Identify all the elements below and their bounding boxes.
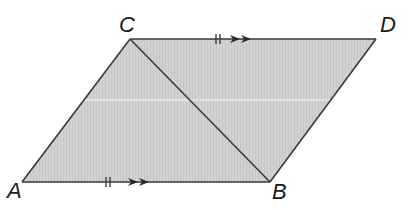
vertex-label-c: C (119, 12, 135, 37)
parallelogram-diagram: C D A B (0, 0, 411, 210)
vertex-label-b: B (272, 179, 287, 204)
vertex-label-a: A (5, 178, 22, 203)
vertex-label-d: D (380, 12, 396, 37)
